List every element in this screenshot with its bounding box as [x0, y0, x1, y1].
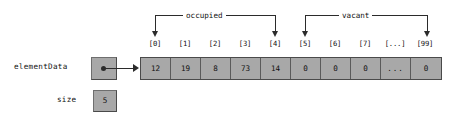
element-data-field-label: elementData — [14, 62, 68, 72]
array-index-label: [3] — [230, 39, 260, 48]
vacant-span-label: vacant — [339, 10, 372, 21]
array-diagram: occupied vacant [0] [1] [2] [3] [4] [5] … — [0, 0, 453, 117]
arrow-down-icon — [302, 31, 308, 37]
array-index-label: [2] — [200, 39, 230, 48]
element-data-array: 12 19 8 73 14 0 0 0 ... 0 — [140, 57, 442, 80]
array-cell: 8 — [201, 58, 231, 79]
array-cell: 19 — [171, 58, 201, 79]
vacant-span-right-stem — [427, 15, 428, 32]
array-cell: 14 — [261, 58, 291, 79]
array-cell: 12 — [141, 58, 171, 79]
array-cell: 0 — [351, 58, 381, 79]
array-index-label: [4] — [260, 39, 290, 48]
array-cell: 0 — [291, 58, 321, 79]
array-index-label: [5] — [290, 39, 320, 48]
size-value: 5 — [103, 97, 108, 105]
array-index-label: [6] — [320, 39, 350, 48]
array-index-label: [99] — [410, 39, 440, 48]
array-index-label: [7] — [350, 39, 380, 48]
array-cell-ellipsis: ... — [381, 58, 411, 79]
array-index-label: [...] — [380, 39, 410, 48]
arrow-right-icon — [133, 64, 139, 72]
size-field-label: size — [57, 95, 77, 105]
array-index-labels: [0] [1] [2] [3] [4] [5] [6] [7] [...] [9… — [140, 39, 440, 48]
reference-arrow-line — [104, 68, 136, 70]
array-index-label: [0] — [140, 39, 170, 48]
array-cell: 0 — [321, 58, 351, 79]
array-index-label: [1] — [170, 39, 200, 48]
size-value-box: 5 — [93, 90, 117, 112]
array-cell: 0 — [411, 58, 441, 79]
arrow-down-icon — [424, 31, 430, 37]
vacant-span-left-stem — [305, 15, 306, 32]
array-cell: 73 — [231, 58, 261, 79]
